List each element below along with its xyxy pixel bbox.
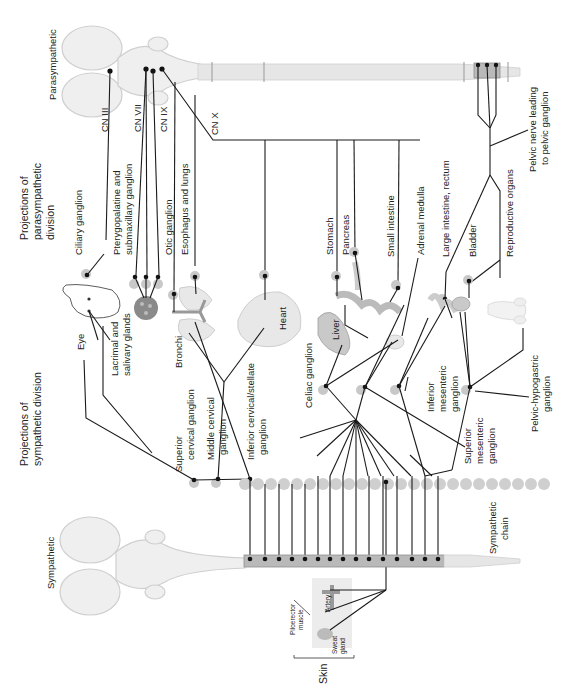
sympathetic-label: Sympathetic [45,536,56,589]
esophagus-lungs-label: Esophagus and lungs [179,163,190,255]
stomach-intestine-icon [336,262,400,312]
inferior-mesenteric-label-3: ganglion [449,376,460,412]
superior-cervical-label-1: Superior [173,436,184,472]
parasympathetic-label: Parasympathetic [47,29,58,100]
pterygopalatine-label-2: submaxillary ganglion [123,164,134,255]
inferior-cervical-label-1: Inferior cervical/stellate [245,363,256,460]
superior-mesenteric-label-2: mesenteric [474,417,485,464]
stomach-label: Stomach [324,218,335,256]
large-intestine-label: Large intestine, rectum [440,160,451,257]
sympathetic-chain [239,478,550,490]
parasympathetic-spinal-cord [198,62,520,82]
parasympathetic-brain [62,26,200,117]
pelvic-nerve-label-2: to pelvic ganglion [539,92,550,165]
bladder-icon [452,297,470,311]
skin-label: Skin [317,663,329,684]
parasympathetic-projections-heading-2: parasympathetic [31,163,43,240]
inferior-mesenteric-label-1: Inferior [425,382,436,412]
pelvic-hypogastric-label-1: Pelvic-hypogastric [529,355,540,432]
bladder-label: Bladder [467,224,478,257]
sweat-gland-label-1: Sweat [331,636,338,654]
lungs-bronchi-icon [172,287,215,342]
artery-label: Artery [324,594,332,612]
pelvic-hypogastric-label-2: ganglion [541,376,552,412]
preganglionic-fibers [250,476,438,590]
cn-vii-label: CN VII [132,104,143,132]
ciliary-ganglion-label: Ciliary ganglion [73,190,84,255]
sympathetic-projections-heading-2: sympathetic division [31,372,43,466]
autonomic-nervous-system-diagram: Parasympathetic CN III CN VII CN IX CN X… [0,0,564,688]
otic-ganglion-label: Otic ganglion [163,200,174,255]
face-eye-icon [63,285,120,318]
sweat-gland-label-2: gland [339,638,347,654]
sympathetic-brain [60,517,245,615]
eye-label: Eye [75,334,86,350]
liver-label: Liver [330,319,341,340]
pancreas-label: Pancreas [340,215,351,255]
sympathetic-chain-label-2: chain [499,517,510,540]
lacrimal-label-2: salivary glands [121,313,132,376]
superior-mesenteric-label-3: ganglion [486,428,497,464]
salivary-gland-icon [134,296,158,320]
middle-cervical-label-1: Middle cervical [205,397,216,460]
small-intestine-label: Small intestine [385,195,396,257]
adrenal-medulla-label: Adrenal medulla [415,186,426,255]
inferior-mesenteric-label-2: mesenteric [437,365,448,412]
heart-icon [238,292,301,347]
piloerector-label-2: muscle [297,609,304,630]
lacrimal-label-1: Lacrimal and [109,322,120,376]
parasympathetic-projections-heading-3: division [44,205,56,240]
bronchi-label: Bronchi [173,336,184,368]
superior-cervical-label-2: cervical ganglion [185,389,196,460]
piloerector-label-1: Piloerector [289,603,296,635]
pterygopalatine-label-1: Pterygopalatine and [111,170,122,255]
parasympathetic-projections-heading-1: Projections of [18,176,30,240]
inferior-cervical-label-2: ganglion [257,419,268,455]
middle-cervical-label-2: ganglion [217,419,228,455]
sympathetic-chain-label-1: Sympathetic [487,501,498,554]
sympathetic-spinal-cord [244,555,520,567]
reproductive-organs-icon [488,298,526,324]
cn-ix-label: CN IX [158,106,169,132]
heart-label: Heart [277,306,288,330]
celiac-ganglion-label: Celiac ganglion [303,343,314,408]
cn-x-label: CN X [209,112,220,135]
reproductive-organs-label: Reproductive organs [504,169,515,257]
pelvic-nerve-label-1: Pelvic nerve leading [527,87,538,172]
sympathetic-projections-heading-1: Projections of [18,402,30,466]
